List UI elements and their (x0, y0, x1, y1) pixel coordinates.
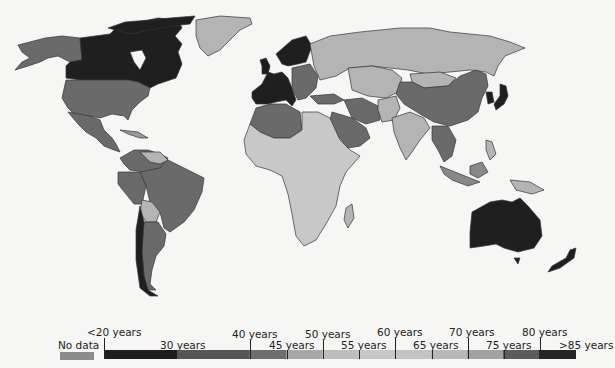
legend-swatch-65-70 (431, 350, 467, 359)
legend-tick-65 (432, 350, 433, 359)
legend-tick-80 (540, 338, 541, 359)
legend-tick-45 (287, 350, 288, 359)
legend-swatch-55-60 (358, 350, 394, 359)
legend-tick-50 (323, 340, 324, 359)
region-australia[interactable] (470, 198, 542, 252)
legend-label-70: 70 years (449, 326, 495, 338)
region-central-asia[interactable] (348, 66, 402, 98)
legend-swatch-60-65 (394, 350, 431, 359)
legend-no-data-label: No data (58, 339, 99, 351)
region-argentina[interactable] (142, 222, 166, 290)
legend-swatch-under30 (104, 350, 177, 359)
legend-swatch-30-40 (177, 350, 249, 359)
legend-swatch-40-45 (249, 350, 286, 359)
legend-tick-70 (468, 338, 469, 359)
region-russia[interactable] (310, 28, 525, 80)
legend-swatch-75-80 (503, 350, 539, 359)
legend: No data <20 years 40 years 50 years 60 y… (0, 322, 615, 368)
region-caribbean[interactable] (120, 130, 148, 138)
legend-label-60: 60 years (377, 326, 423, 338)
region-india[interactable] (392, 112, 430, 160)
legend-swatch-50-55 (322, 350, 358, 359)
region-western-europe[interactable] (252, 72, 296, 106)
legend-tick-55 (359, 350, 360, 359)
legend-tick-75 (504, 350, 505, 359)
region-eastern-europe[interactable] (292, 64, 318, 100)
legend-color-bar (104, 350, 578, 359)
region-peru[interactable] (118, 172, 146, 204)
region-japan[interactable] (494, 84, 508, 110)
legend-swatch-45-50 (286, 350, 322, 359)
region-turkey[interactable] (310, 94, 344, 104)
region-madagascar[interactable] (344, 204, 354, 228)
region-tasmania[interactable] (514, 258, 520, 264)
world-map (0, 0, 615, 320)
region-greenland[interactable] (196, 16, 252, 56)
legend-tick-20 (104, 338, 105, 359)
region-philippines[interactable] (486, 140, 496, 160)
region-korea[interactable] (486, 92, 494, 104)
legend-swatch-over80 (539, 350, 576, 359)
region-uk[interactable] (260, 58, 270, 74)
legend-no-data-swatch (60, 352, 94, 360)
region-new-zealand[interactable] (548, 248, 576, 272)
region-southeast-asia[interactable] (432, 126, 456, 162)
legend-label-80: 80 years (522, 326, 568, 338)
legend-tick-60 (395, 338, 396, 359)
legend-swatch-70-75 (467, 350, 503, 359)
legend-label-under20: <20 years (87, 326, 141, 338)
region-mexico[interactable] (68, 112, 120, 152)
region-scandinavia[interactable] (276, 36, 312, 66)
region-new-guinea[interactable] (510, 180, 544, 194)
legend-tick-40 (250, 340, 251, 359)
region-borneo[interactable] (470, 162, 488, 178)
